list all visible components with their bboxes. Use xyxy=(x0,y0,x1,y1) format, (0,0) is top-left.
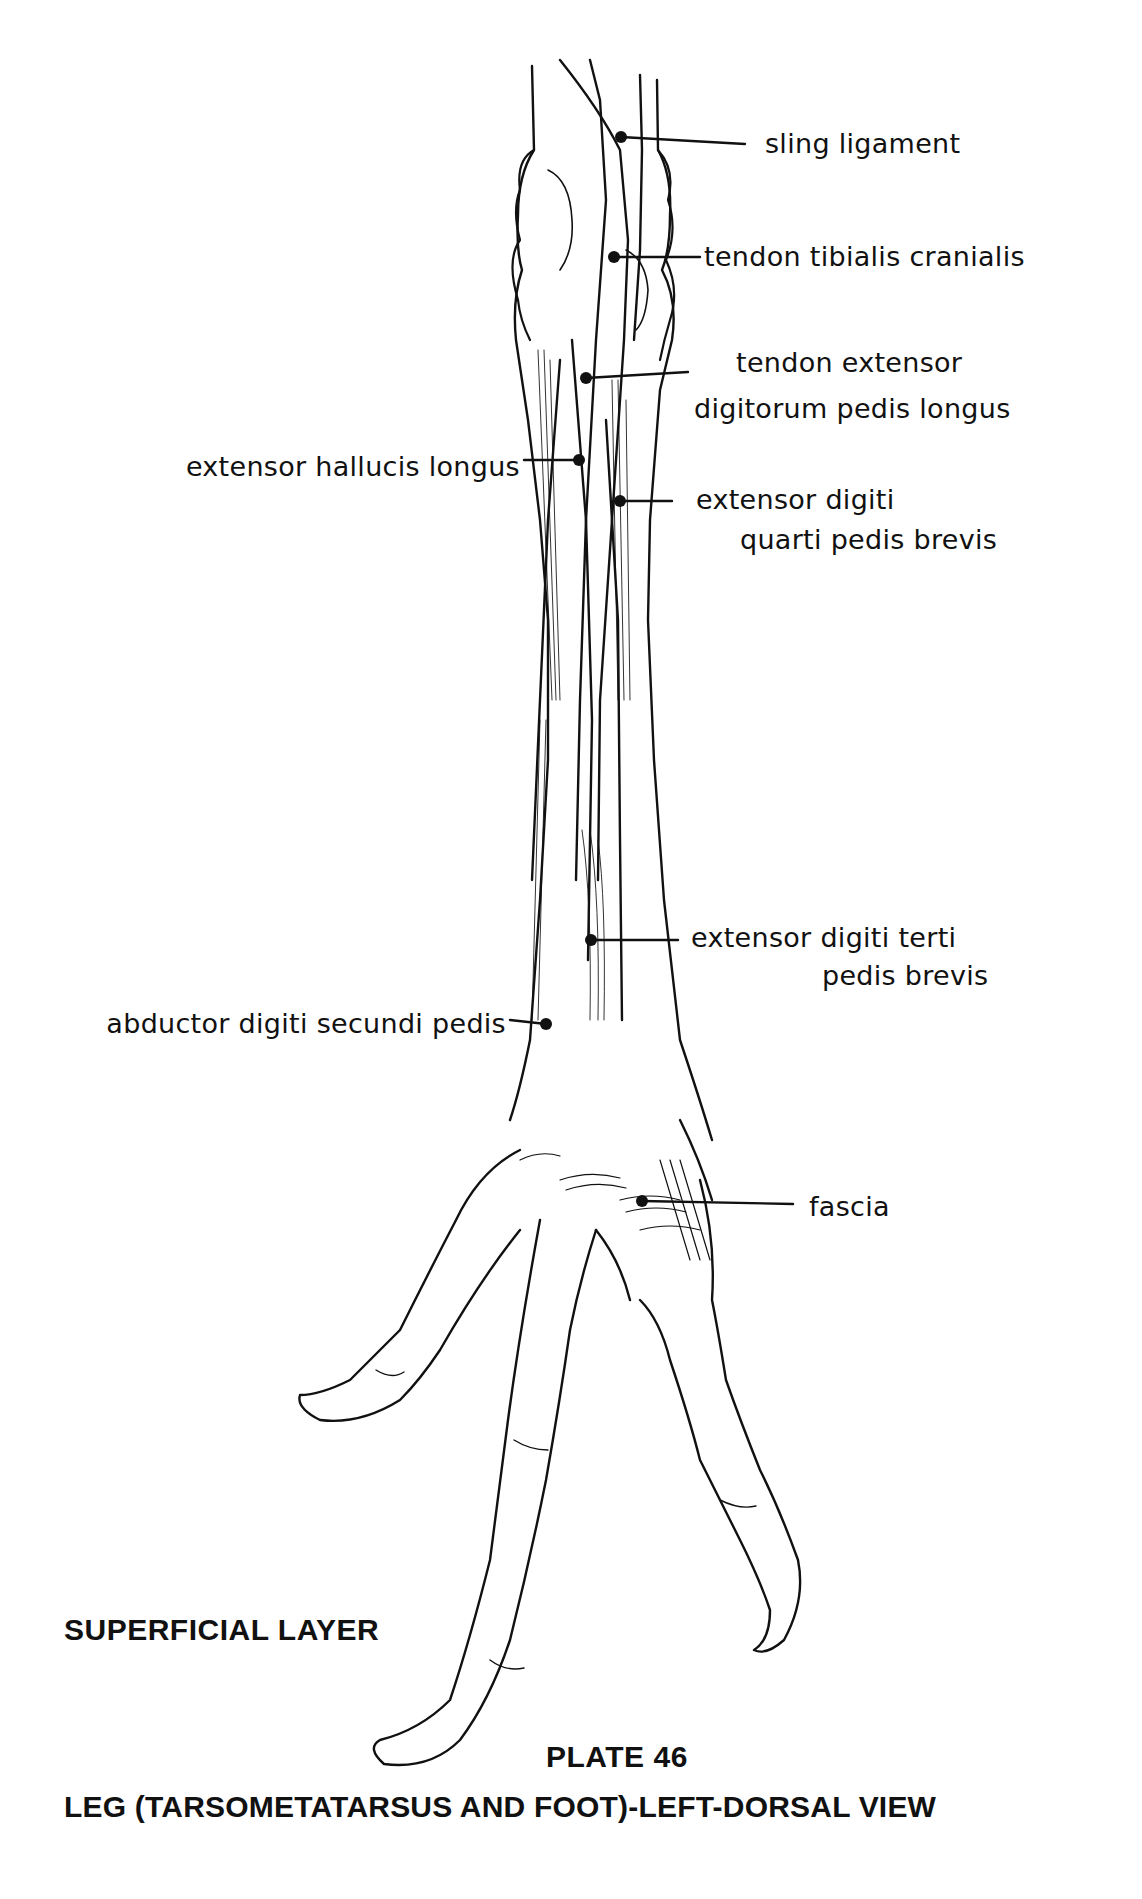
tarsometatarsus-shaft xyxy=(510,60,712,1140)
label-fascia: fascia xyxy=(809,1193,890,1220)
label-extensor-digiti-quarti-line1: extensor digiti xyxy=(696,486,895,513)
foot xyxy=(299,1120,800,1765)
label-extensor-digiti-quarti-line2: quarti pedis brevis xyxy=(740,526,997,553)
label-sling-ligament: sling ligament xyxy=(765,130,960,157)
anatomical-plate: sling ligament tendon tibialis cranialis… xyxy=(0,0,1142,1899)
layer-caption: SUPERFICIAL LAYER xyxy=(64,1615,379,1645)
intertarsal-joint xyxy=(512,150,674,360)
leader-sling-ligament xyxy=(621,137,745,144)
plate-number: PLATE 46 xyxy=(546,1742,688,1772)
label-extensor-digiti-terti-line1: extensor digiti terti xyxy=(691,924,956,951)
plate-title: LEG (TARSOMETATARSUS AND FOOT)-LEFT-DORS… xyxy=(64,1792,936,1822)
label-tendon-extensor-line2: digitorum pedis longus xyxy=(694,395,1011,422)
label-extensor-hallucis-longus: extensor hallucis longus xyxy=(186,453,520,480)
label-extensor-digiti-terti-line2: pedis brevis xyxy=(822,962,988,989)
leader-dots xyxy=(540,131,648,1207)
label-tendon-extensor-line1: tendon extensor xyxy=(736,349,962,376)
leader-fascia xyxy=(642,1201,793,1204)
label-tendon-tibialis-cranialis: tendon tibialis cranialis xyxy=(704,243,1025,270)
leader-tendon-extensor-digitorum xyxy=(586,372,688,378)
leader-lines xyxy=(510,137,793,1204)
fascia-hatching xyxy=(520,1154,710,1260)
label-abductor-digiti-secundi-pedis: abductor digiti secundi pedis xyxy=(106,1010,506,1037)
